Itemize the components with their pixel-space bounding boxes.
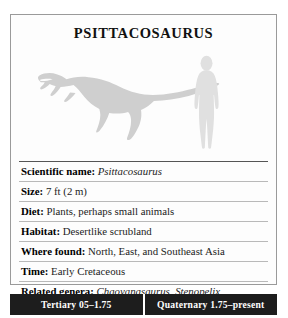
- fact-label: Size:: [21, 185, 43, 197]
- timeline-segment-tertiary[interactable]: Tertiary 05–1.75: [10, 294, 143, 315]
- fact-label: Habitat:: [21, 225, 60, 237]
- timeline-segment-quaternary[interactable]: Quaternary 1.75–present: [143, 294, 278, 315]
- fact-cell: Diet: Plants, perhaps small animals: [19, 202, 268, 222]
- illustration-svg: [11, 46, 276, 152]
- fact-cell: Where found: North, East, and Southeast …: [19, 242, 268, 262]
- table-row: Time: Early Cretaceous: [19, 262, 268, 282]
- fact-cell: Scientific name: Psittacosaurus: [19, 162, 268, 182]
- fact-value: 7 ft (2 m): [46, 185, 87, 197]
- fact-value: Plants, perhaps small animals: [46, 205, 174, 217]
- table-row: Diet: Plants, perhaps small animals: [19, 202, 268, 222]
- page-title: PSITTACOSAURUS: [11, 25, 276, 42]
- fact-label: Time:: [21, 265, 48, 277]
- dinosaur-forelimb: [64, 93, 75, 102]
- fact-value: Early Cretaceous: [51, 265, 125, 277]
- scale-illustration: [11, 46, 276, 152]
- table-row: Habitat: Desertlike scrubland: [19, 222, 268, 242]
- table-row: Scientific name: Psittacosaurus: [19, 162, 268, 182]
- fact-label: Scientific name:: [21, 165, 95, 177]
- fact-label: Where found:: [21, 245, 85, 257]
- fact-value: Psittacosaurus: [98, 165, 162, 177]
- dinosaur-silhouette: [38, 73, 219, 140]
- dinosaur-fact-card: PSITTACOSAURUS Scientific name: Psittaco…: [10, 14, 277, 285]
- fact-cell: Habitat: Desertlike scrubland: [19, 222, 268, 242]
- fact-cell: Time: Early Cretaceous: [19, 262, 268, 282]
- table-row: Size: 7 ft (2 m): [19, 182, 268, 202]
- table-row: Where found: North, East, and Southeast …: [19, 242, 268, 262]
- human-scale-silhouette: [194, 56, 218, 149]
- fact-cell: Size: 7 ft (2 m): [19, 182, 268, 202]
- fact-table: Scientific name: Psittacosaurus Size: 7 …: [19, 161, 268, 302]
- fact-table-body: Scientific name: Psittacosaurus Size: 7 …: [19, 162, 268, 302]
- geologic-timeline: Tertiary 05–1.75 Quaternary 1.75–present: [10, 294, 277, 315]
- fact-value: North, East, and Southeast Asia: [88, 245, 225, 257]
- fact-value: Desertlike scrubland: [63, 225, 152, 237]
- fact-label: Diet:: [21, 205, 44, 217]
